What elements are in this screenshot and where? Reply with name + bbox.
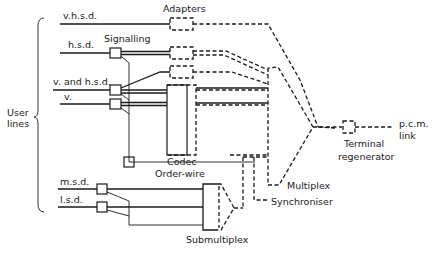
signalling-box-v-and-hsd — [110, 85, 121, 95]
adapter3-to-multiplex — [193, 72, 268, 84]
adapters-label: Adapters — [163, 3, 206, 14]
tdm-system-diagram: User lines v.h.s.d. h.s.d. v. and h.s.d.… — [0, 0, 432, 253]
user-lines-label-1: User — [7, 107, 29, 118]
synchroniser-label: Synchroniser — [271, 196, 333, 207]
submux-signalling-bus — [107, 192, 203, 225]
terminal-regenerator-label-1: Terminal — [343, 138, 384, 149]
input-label-v-and-hsd: v. and h.s.d. — [53, 76, 111, 87]
multiplex-label: Multiplex — [287, 180, 331, 191]
synchroniser-line — [254, 157, 267, 200]
input-label-vhsd: v.h.s.d. — [63, 10, 97, 21]
multiplex-block — [268, 67, 313, 185]
pcm-link-label-1: p.c.m. — [399, 118, 429, 129]
lsd-sig-tail — [107, 210, 129, 216]
sig-tail-2 — [121, 108, 129, 114]
submultiplex-label: Submultiplex — [186, 234, 249, 245]
input-label-v: v. — [64, 91, 72, 102]
sig-tail-1 — [121, 94, 129, 100]
v-hsd-to-adapter — [121, 72, 170, 88]
codec-label: Codec — [167, 156, 197, 167]
adapter-hsd — [170, 47, 193, 59]
input-label-lsd: l.s.d. — [60, 194, 83, 205]
terminal-regenerator-box — [343, 121, 355, 133]
adapter-v-hsd — [170, 66, 193, 78]
input-label-hsd: h.s.d. — [68, 39, 94, 50]
signalling-box-hsd — [110, 48, 121, 58]
terminal-regenerator-label-2: regenerator — [338, 151, 395, 162]
user-lines-brace — [34, 18, 44, 212]
signalling-label: Signalling — [104, 33, 151, 44]
signalling-box-msd — [97, 184, 107, 194]
hsd-to-multiplex-a — [193, 51, 268, 70]
signalling-box-v — [110, 99, 121, 109]
user-lines-label-2: lines — [7, 118, 29, 129]
vhsd-to-multiplex — [193, 24, 318, 127]
signalling-box-lsd — [97, 202, 107, 212]
input-label-msd: m.s.d. — [60, 176, 89, 187]
submux-box-dashed — [218, 184, 234, 230]
adapter-vhsd — [170, 18, 193, 30]
order-wire-label: Order-wire — [155, 168, 205, 179]
codec-box-solid — [167, 85, 187, 155]
merge-arrow — [318, 127, 335, 128]
submux-box-solid — [203, 184, 218, 230]
pcm-link-label-2: link — [399, 130, 416, 141]
